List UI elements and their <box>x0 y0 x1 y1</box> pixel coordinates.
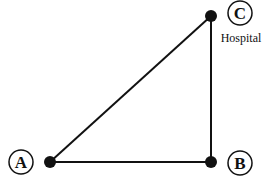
label-c: C <box>234 4 246 23</box>
triangle-diagram: A B C Hospital <box>0 0 266 185</box>
point-b-dot <box>205 156 217 168</box>
label-b: B <box>234 154 245 173</box>
hospital-label: Hospital <box>221 31 262 45</box>
point-a-dot <box>44 156 56 168</box>
label-a: A <box>15 153 28 172</box>
edge-a-c <box>50 16 211 162</box>
point-c-dot <box>205 10 217 22</box>
